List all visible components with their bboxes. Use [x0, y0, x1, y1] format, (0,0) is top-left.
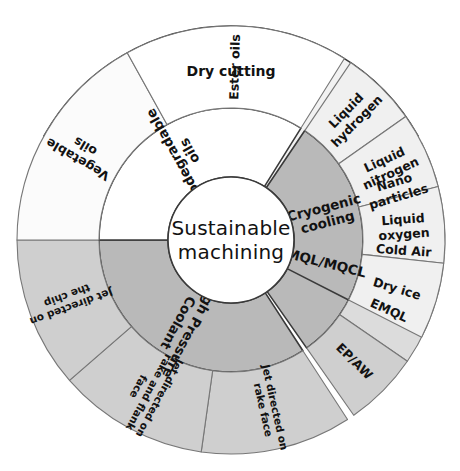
sustainable-machining-wheel-diagram: Dry cuttingNanoparticlesCold AirEMQLEP/A… — [0, 0, 460, 471]
center-label-line2: machining — [178, 240, 284, 264]
center-label-line1: Sustainable — [171, 216, 290, 240]
subsector-label-ester-oils: Ester oils — [226, 34, 243, 100]
subsector-label-ester-oils-line1: Ester oils — [226, 34, 243, 100]
center-label-group: Sustainable machining — [171, 216, 290, 264]
wheel-svg: Dry cuttingNanoparticlesCold AirEMQLEP/A… — [0, 0, 460, 471]
subsector-label-liquid-oxygen: Liquidoxygen — [377, 210, 430, 244]
